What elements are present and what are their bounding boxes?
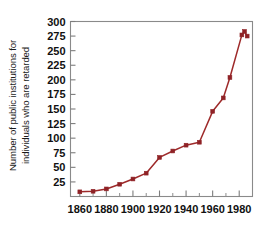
- series-data-point: [197, 140, 201, 144]
- series-data-point: [245, 34, 249, 38]
- y-tick-label: 300: [47, 16, 65, 28]
- series-data-point: [221, 96, 225, 100]
- y-tick-label: 225: [47, 59, 65, 71]
- series-data-point: [243, 30, 247, 34]
- y-axis-tick-labels: 255075100125150175200225250275300: [47, 16, 65, 188]
- x-tick-label: 1900: [121, 203, 145, 215]
- x-tick-label: 1880: [94, 203, 118, 215]
- x-tick-label: 1960: [200, 203, 224, 215]
- series-data-point: [211, 109, 215, 113]
- series-data-point: [228, 76, 232, 80]
- y-tick-label: 75: [53, 147, 65, 159]
- y-axis-tick-marks: [71, 22, 76, 182]
- x-tick-label: 1980: [227, 203, 251, 215]
- series-data-point: [171, 149, 175, 153]
- y-tick-label: 275: [47, 30, 65, 42]
- y-tick-label: 175: [47, 88, 65, 100]
- line-chart-plot: 255075100125150175200225250275300 186018…: [0, 0, 271, 232]
- x-tick-label: 1860: [68, 203, 92, 215]
- x-tick-label: 1920: [147, 203, 171, 215]
- series-line: [80, 31, 247, 191]
- x-axis-tick-labels: 1860188019001920194019601980: [68, 203, 252, 215]
- x-tick-label: 1940: [174, 203, 198, 215]
- y-tick-label: 200: [47, 74, 65, 86]
- series-data-point: [104, 187, 108, 191]
- series-data-point: [184, 143, 188, 147]
- y-tick-label: 25: [53, 176, 65, 188]
- chart-container: Number of public institutions for indivi…: [0, 0, 271, 232]
- series-data-point: [144, 171, 148, 175]
- series-data-point: [131, 177, 135, 181]
- series-data-point: [91, 189, 95, 193]
- series-data-point: [118, 182, 122, 186]
- y-tick-label: 100: [47, 132, 65, 144]
- y-tick-label: 250: [47, 45, 65, 57]
- y-tick-label: 125: [47, 118, 65, 130]
- data-series-group: [78, 30, 249, 194]
- x-axis-tick-marks: [80, 191, 239, 197]
- series-data-point: [78, 190, 82, 194]
- plot-frame: [71, 22, 253, 197]
- series-data-point: [158, 156, 162, 160]
- y-tick-label: 150: [47, 103, 65, 115]
- y-tick-label: 50: [53, 161, 65, 173]
